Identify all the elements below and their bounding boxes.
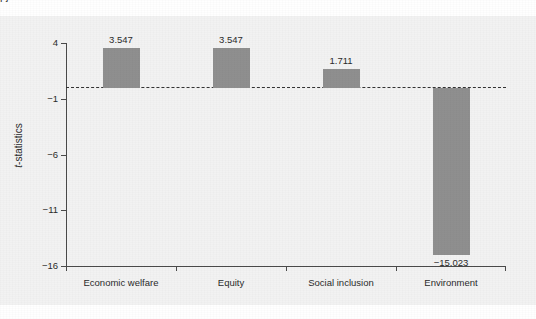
y-tick-label-holder: −1 (0, 99, 58, 100)
y-tick-mark (61, 210, 66, 211)
y-tick-label: −16 (10, 260, 58, 271)
bar[interactable] (323, 69, 360, 88)
bar[interactable] (213, 48, 250, 88)
y-tick-label: −11 (10, 204, 58, 215)
x-tick-mark (66, 266, 67, 271)
bar-value-label: −15.023 (406, 257, 496, 268)
bar-value-label: 3.547 (186, 34, 276, 45)
x-tick-mark (176, 266, 177, 271)
bar[interactable] (433, 88, 470, 256)
y-tick-label: 4 (10, 37, 58, 48)
y-tick-label-holder: 4 (0, 43, 58, 44)
x-axis-end-cap (505, 266, 506, 271)
y-axis-line (66, 43, 67, 267)
bar[interactable] (103, 48, 140, 88)
y-tick-mark (61, 43, 66, 44)
y-tick-label-holder: −16 (0, 266, 58, 267)
y-tick-label-holder: −11 (0, 210, 58, 211)
y-tick-label: −6 (10, 149, 58, 160)
bar-value-label: 3.547 (76, 34, 166, 45)
y-tick-mark (61, 99, 66, 100)
bar-chart-plot-area: t-statistics 4−1−6−11−16 3.5473.5471.711… (0, 0, 536, 319)
bar-value-label: 1.711 (296, 55, 386, 66)
y-tick-label-holder: −6 (0, 155, 58, 156)
y-tick-label: −1 (10, 93, 58, 104)
x-tick-label: Environment (376, 277, 526, 288)
x-tick-mark (286, 266, 287, 271)
x-tick-mark (396, 266, 397, 271)
y-tick-mark (61, 155, 66, 156)
y-axis-title-symbol: t (13, 165, 24, 168)
y-axis-title: t-statistics (13, 106, 24, 186)
